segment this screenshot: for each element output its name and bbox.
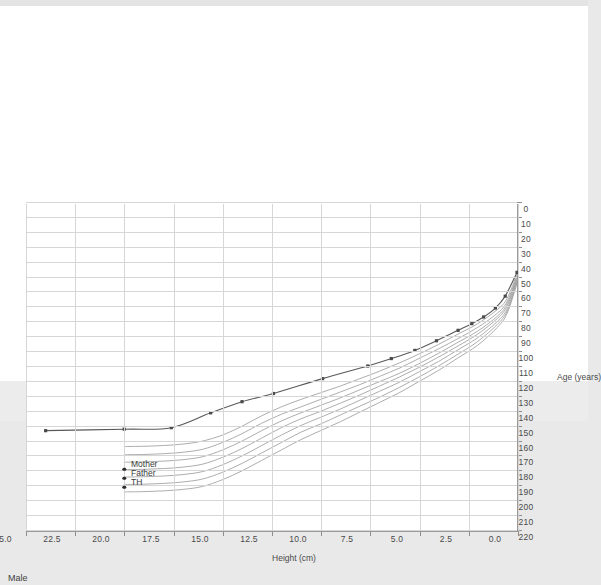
annotation-label-father: Father xyxy=(131,468,156,478)
gridline-age xyxy=(272,204,273,531)
y-axis-tick-label: 80 xyxy=(521,323,531,333)
gridline-age xyxy=(124,204,125,531)
y-axis-title: Height (cm) xyxy=(272,553,316,563)
y-axis-tick-label: 200 xyxy=(519,502,534,512)
patient-data-point xyxy=(470,322,473,325)
y-axis-tick-label: 90 xyxy=(521,338,531,348)
tick-age xyxy=(272,531,273,536)
y-axis-tick-label: 100 xyxy=(519,353,534,363)
x-axis-tick-label: 17.5 xyxy=(128,534,174,544)
y-axis-tick-label: 130 xyxy=(519,398,534,408)
x-axis-tick-label: 20.0 xyxy=(78,534,124,544)
y-axis-tick-label: 30 xyxy=(521,249,531,259)
annotation-label-mother: Mother xyxy=(131,459,157,469)
y-axis-tick-label: 140 xyxy=(519,413,534,423)
rotated-figure-host: Male Height (cm) Age (years) 01020304050… xyxy=(0,167,588,585)
y-axis-tick-label: 60 xyxy=(521,293,531,303)
tick-age xyxy=(321,531,322,536)
gridline-age xyxy=(469,204,470,531)
y-axis-tick-label: 50 xyxy=(521,279,531,289)
x-axis-tick-label: 22.5 xyxy=(29,534,75,544)
y-axis-tick-label: 0 xyxy=(524,204,529,214)
patient-data-point xyxy=(435,339,438,342)
gridline-age xyxy=(370,204,371,531)
gridline-age xyxy=(223,204,224,531)
y-axis-tick-label: 20 xyxy=(521,234,531,244)
gridline-age xyxy=(174,204,175,531)
patient-data-point xyxy=(240,400,243,403)
growth-chart-figure: Male Height (cm) Age (years) 01020304050… xyxy=(0,167,588,585)
tick-age xyxy=(124,531,125,536)
tick-age xyxy=(75,531,76,536)
x-axis-tick-label: 5.0 xyxy=(374,534,420,544)
x-axis-tick-label: 0.0 xyxy=(472,534,518,544)
x-axis-tick-label: 25.0 xyxy=(0,534,26,544)
patient-data-point xyxy=(504,295,507,298)
y-axis-tick-label: 40 xyxy=(521,264,531,274)
chart-title: Male xyxy=(8,573,28,583)
gridline-age xyxy=(75,204,76,531)
y-axis-tick-label: 210 xyxy=(519,517,534,527)
tick-age xyxy=(26,531,27,536)
y-axis-tick-label: 110 xyxy=(519,368,533,378)
patient-data-point xyxy=(482,315,485,318)
annotation-label-th: TH xyxy=(131,477,142,487)
gridline-age xyxy=(420,204,421,531)
x-axis-tick-label: 15.0 xyxy=(177,534,223,544)
x-axis-tick-label: 12.5 xyxy=(226,534,272,544)
y-axis-tick-label: 70 xyxy=(521,308,531,318)
tick-age xyxy=(370,531,371,536)
gridline-age xyxy=(321,204,322,531)
patient-data-point xyxy=(390,357,393,360)
y-axis-tick-label: 10 xyxy=(521,219,531,229)
x-axis-tick-label: 10.0 xyxy=(275,534,321,544)
patient-data-point xyxy=(44,429,47,432)
y-axis-tick-label: 150 xyxy=(519,428,534,438)
gridline-age xyxy=(26,204,27,531)
y-axis-tick-label: 120 xyxy=(519,383,534,393)
tick-height xyxy=(517,202,522,203)
gridline-height xyxy=(26,202,517,203)
y-axis-tick-label: 220 xyxy=(519,532,534,542)
y-axis-tick-label: 170 xyxy=(519,457,534,467)
x-axis-tick-label: 7.5 xyxy=(324,534,370,544)
x-axis-title: Age (years) xyxy=(557,373,601,383)
y-axis-tick-label: 160 xyxy=(519,443,534,453)
x-axis-tick-label: 2.5 xyxy=(423,534,469,544)
y-axis-tick-label: 180 xyxy=(519,472,534,482)
y-axis-tick-label: 190 xyxy=(519,487,534,497)
patient-data-point xyxy=(456,329,459,332)
plot-area xyxy=(26,204,518,532)
